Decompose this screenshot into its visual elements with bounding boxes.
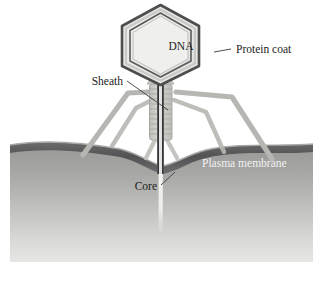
injected-dna-strand: [159, 170, 163, 232]
tail-core: [157, 76, 164, 174]
label-dna: DNA: [169, 40, 195, 52]
tail-core-edge-left: [157, 76, 159, 174]
diagram-canvas: DNA Protein coat Sheath Core Plasma memb…: [0, 0, 323, 285]
label-plasma-membrane: Plasma membrane: [202, 157, 287, 169]
tail-core-edge-right: [162, 76, 164, 174]
label-core: Core: [135, 180, 157, 192]
label-protein-coat: Protein coat: [236, 43, 292, 55]
label-sheath: Sheath: [92, 75, 124, 87]
phage-infection-diagram: DNA Protein coat Sheath Core Plasma memb…: [0, 0, 323, 285]
